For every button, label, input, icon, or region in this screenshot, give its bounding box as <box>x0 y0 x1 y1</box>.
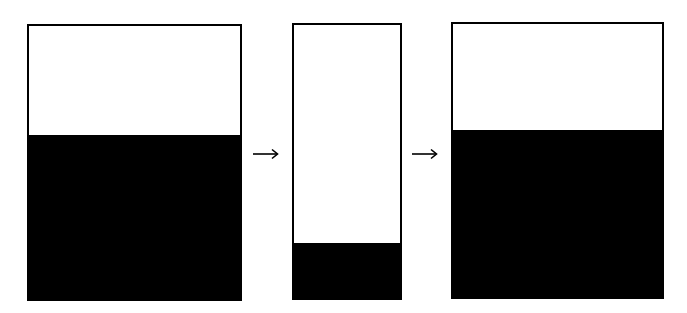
right-arrow-icon <box>253 148 279 160</box>
container-right <box>451 22 664 299</box>
container-left <box>27 24 242 301</box>
fill-level-middle <box>294 243 400 298</box>
fill-level-right <box>453 130 662 297</box>
container-middle <box>292 23 402 300</box>
right-arrow-icon <box>412 148 438 160</box>
fill-level-left <box>29 135 240 299</box>
